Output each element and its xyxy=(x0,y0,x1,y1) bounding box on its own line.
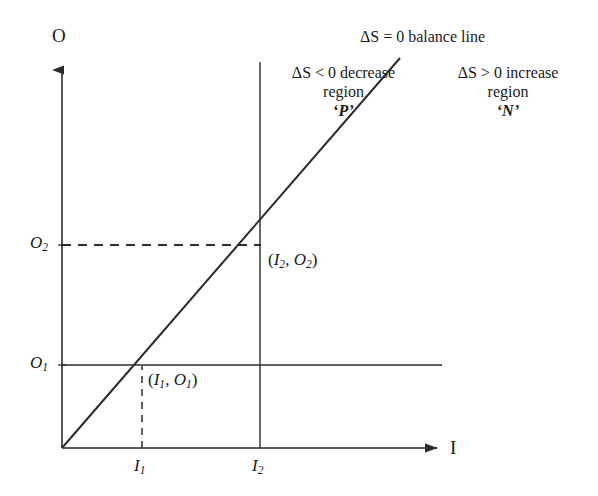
decrease-region-line2: region xyxy=(266,83,421,102)
y-tick-label-o1-sub: 1 xyxy=(42,361,48,374)
decrease-region-annotation: ΔS < 0 decrease region ‘P’ xyxy=(266,64,421,121)
y-tick-label-o1-base: O xyxy=(30,353,42,372)
increase-region-line1: ΔS > 0 increase xyxy=(428,64,588,83)
increase-region-line2: region xyxy=(428,83,588,102)
y-tick-label-o2-base: O xyxy=(30,233,42,252)
decrease-region-code: ‘P’ xyxy=(266,102,421,121)
y-axis-label: O xyxy=(52,25,66,47)
y-tick-label-o1: O1 xyxy=(30,353,48,375)
point-i2-o2-y-base: O xyxy=(294,250,306,269)
x-tick-label-i1: I1 xyxy=(134,456,145,478)
x-tick-label-i2-sub: 2 xyxy=(258,464,264,477)
x-tick-label-i1-sub: 1 xyxy=(140,464,146,477)
balance-line-annotation: ΔS = 0 balance line xyxy=(360,28,485,47)
y-tick-label-o2-sub: 2 xyxy=(42,241,48,254)
point-i1-o1-sep: , xyxy=(165,370,174,389)
balance-line-diagram: O I ΔS = 0 balance line ΔS < 0 decrease … xyxy=(0,0,598,496)
point-i1-o1-close: ) xyxy=(192,370,198,389)
increase-region-code: ‘N’ xyxy=(428,102,588,121)
x-axis-label: I xyxy=(450,437,456,459)
point-i2-o2-close: ) xyxy=(312,250,318,269)
point-i2-o2-sep: , xyxy=(285,250,294,269)
point-label-i1-o1: (I1, O1) xyxy=(148,370,197,392)
x-tick-label-i2: I2 xyxy=(252,456,263,478)
decrease-region-line1: ΔS < 0 decrease xyxy=(266,64,421,83)
point-label-i2-o2: (I2, O2) xyxy=(268,250,317,272)
y-tick-label-o2: O2 xyxy=(30,233,48,255)
increase-region-annotation: ΔS > 0 increase region ‘N’ xyxy=(428,64,588,121)
point-i1-o1-y-base: O xyxy=(174,370,186,389)
